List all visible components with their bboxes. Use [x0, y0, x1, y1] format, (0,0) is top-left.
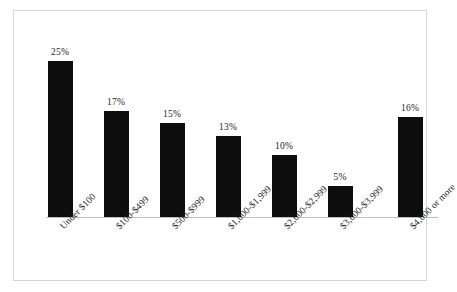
- bar-rect[interactable]: [104, 111, 129, 217]
- chart-border-frame: 25% 17% 15% 13% 10%: [13, 10, 427, 281]
- x-axis-tick: $1,000-$1,999: [200, 220, 256, 290]
- bar-group: 25%: [32, 29, 88, 217]
- x-axis-tick: $500-$999: [144, 220, 200, 290]
- bar-group: 16%: [382, 29, 438, 217]
- bar-rect[interactable]: [216, 136, 241, 217]
- bar-group: 15%: [144, 29, 200, 217]
- x-axis-tick: $4,000 or more: [382, 220, 438, 290]
- x-axis-tick: Under $100: [32, 220, 88, 290]
- x-axis-tick: $100-$499: [88, 220, 144, 290]
- bar-rect[interactable]: [48, 61, 73, 217]
- bar-rect[interactable]: [160, 123, 185, 217]
- bar-value-label: 13%: [200, 122, 256, 132]
- bar-rect[interactable]: [398, 117, 423, 217]
- x-axis-tick: $2,000-$2,999: [256, 220, 312, 290]
- bar-value-label: 15%: [144, 109, 200, 119]
- bar-value-label: 5%: [312, 172, 368, 182]
- bar-value-label: 16%: [382, 103, 438, 113]
- bar-group: 13%: [200, 29, 256, 217]
- bar-value-label: 10%: [256, 141, 312, 151]
- x-axis-category-labels: Under $100 $100-$499 $500-$999 $1,000-$1…: [32, 220, 438, 290]
- bar-value-label: 17%: [88, 97, 144, 107]
- bar-group: 17%: [88, 29, 144, 217]
- x-axis-tick: $3,000-$3,999: [312, 220, 368, 290]
- bar-value-label: 25%: [32, 47, 88, 57]
- bar-rect[interactable]: [272, 155, 297, 217]
